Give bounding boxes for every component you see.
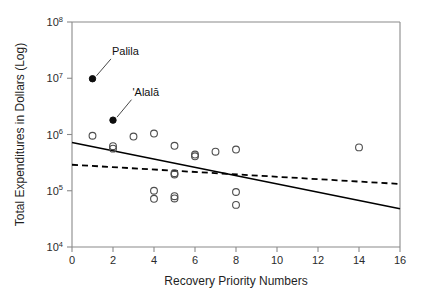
x-tick-label: 0 [69,254,75,266]
x-tick-label: 12 [312,254,324,266]
palila-annotation-leader [97,59,111,76]
y-tick-label: 106 [47,127,63,141]
x-tick-label: 14 [353,254,365,266]
alala-annotation-label: 'Alalā [132,86,159,98]
data-point-highlighted [110,117,116,123]
x-tick-label: 16 [394,254,406,266]
data-point [130,133,137,140]
dashed-regression-line [72,165,400,184]
data-point [233,146,240,153]
data-point [212,148,219,155]
y-tick-label: 108 [47,15,63,29]
palila-annotation-label: Palila [112,45,140,57]
x-tick-label: 8 [233,254,239,266]
x-tick-label: 6 [192,254,198,266]
y-tick-label: 107 [47,71,63,85]
x-tick-label: 4 [151,254,157,266]
data-point [151,130,158,137]
data-point [89,132,96,139]
data-point [171,142,178,149]
data-point [151,187,158,194]
data-point [233,189,240,196]
x-tick-label: 2 [110,254,116,266]
data-point [151,195,158,202]
x-axis-title: Recovery Priority Numbers [164,274,307,288]
y-axis-title: Total Expenditures in Dollars (Log) [13,43,27,226]
chart-canvas: 1041051061071080246810121416Recovery Pri… [0,0,423,295]
alala-annotation-leader [117,100,131,117]
x-tick-label: 10 [271,254,283,266]
y-tick-label: 104 [47,240,63,254]
data-point [356,144,363,151]
scatter-plot-figure: 1041051061071080246810121416Recovery Pri… [0,0,423,295]
data-point-highlighted [89,76,95,82]
y-tick-label: 105 [47,183,63,197]
data-point [233,202,240,209]
